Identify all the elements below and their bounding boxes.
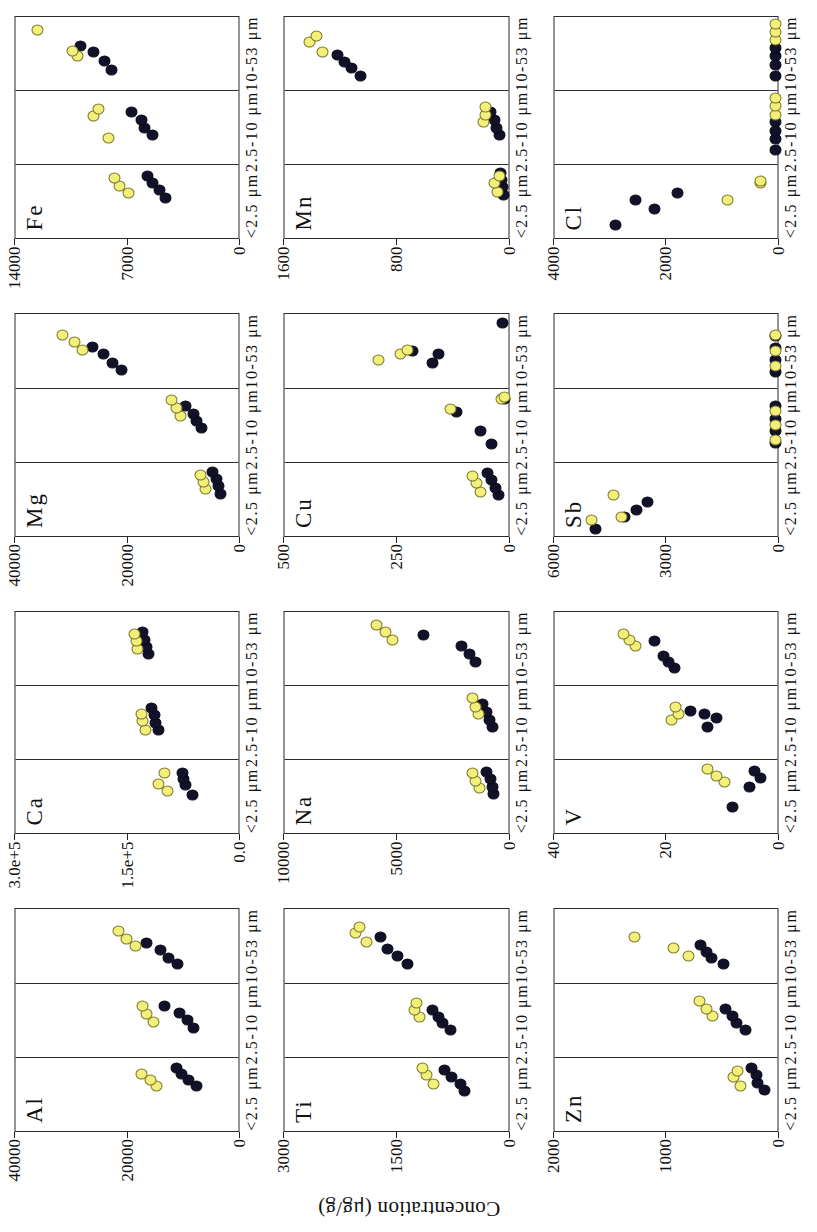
y-tick-mark — [14, 835, 15, 841]
plot-frame-mn: Mn — [283, 16, 508, 240]
y-tick-label: 6000 — [543, 544, 563, 578]
data-point-filled — [186, 790, 198, 801]
y-tick-mark — [126, 537, 127, 543]
y-tick-mark — [283, 537, 284, 543]
data-point-open — [466, 471, 478, 482]
data-point-open — [194, 469, 206, 480]
y-tick-mark — [395, 835, 396, 841]
x-category-label: <2.5 μm — [239, 469, 265, 537]
data-point-open — [135, 708, 147, 719]
y-axis-ticks-cu: 0250500 — [283, 537, 508, 595]
y-tick-label: 0 — [768, 544, 788, 553]
y-tick-label: 7000 — [117, 247, 137, 281]
plot-frame-mg: Mg — [14, 314, 239, 538]
y-tick-mark — [395, 240, 396, 246]
subpanel-na-2 — [284, 685, 507, 759]
y-tick-label: 40000 — [4, 544, 24, 587]
data-point-open — [66, 45, 78, 56]
data-point-open — [158, 768, 170, 779]
x-axis-v: <2.5 μm2.5-10 μm10-53 μm — [778, 611, 804, 835]
x-category-label: 2.5-10 μm — [778, 91, 804, 172]
subpanel-ti-3 — [284, 909, 507, 982]
plot-frame-v: V — [553, 611, 778, 835]
y-axis-ticks-na: 0500010000 — [283, 835, 508, 893]
panel-mg: 02000040000Mg<2.5 μm2.5-10 μm10-53 μm — [14, 314, 265, 596]
data-point-filled — [609, 220, 621, 231]
x-category-label: <2.5 μm — [509, 172, 535, 240]
y-axis-ticks-zn: 010002000 — [553, 1132, 778, 1190]
y-tick-label: 0 — [768, 1139, 788, 1148]
panel-ca: 0.01.5e+53.0e+5Ca<2.5 μm2.5-10 μm10-53 μ… — [14, 611, 265, 893]
data-point-filled — [648, 636, 660, 647]
x-category-label: <2.5 μm — [778, 172, 804, 240]
x-category-label: 2.5-10 μm — [509, 389, 535, 470]
data-point-open — [479, 102, 491, 113]
element-label: Al — [21, 1096, 47, 1123]
data-point-filled — [135, 115, 147, 126]
x-category-label: 10-53 μm — [778, 16, 804, 91]
panel-grid: 02000040000Al<2.5 μm2.5-10 μm10-53 μm0.0… — [14, 16, 804, 1190]
data-point-filled — [173, 1007, 185, 1018]
plot-frame-ca: Ca — [14, 611, 239, 835]
x-category-label: <2.5 μm — [509, 767, 535, 835]
data-point-filled — [401, 958, 413, 969]
data-point-open — [129, 941, 141, 952]
data-point-open — [56, 329, 68, 340]
data-point-filled — [726, 802, 738, 813]
subpanel-mg-3 — [15, 314, 238, 387]
y-tick-label: 0 — [499, 1139, 519, 1148]
data-point-filled — [698, 708, 710, 719]
data-point-filled — [641, 497, 653, 508]
data-point-filled — [106, 357, 118, 368]
panel-v: 02040V<2.5 μm2.5-10 μm10-53 μm — [553, 611, 804, 893]
data-point-open — [310, 31, 322, 42]
y-axis-ticks-ca: 0.01.5e+53.0e+5 — [14, 835, 239, 893]
subpanel-mn-1: Mn — [284, 164, 507, 238]
x-category-label: 10-53 μm — [239, 314, 265, 389]
data-point-open — [731, 1066, 743, 1077]
data-point-filled — [496, 318, 508, 329]
y-axis-ticks-fe: 0700014000 — [14, 240, 239, 298]
y-tick-label: 3000 — [655, 544, 675, 578]
element-label: Cu — [290, 497, 316, 528]
data-point-filled — [710, 713, 722, 724]
element-label: Na — [290, 795, 316, 826]
x-category-label: 10-53 μm — [239, 909, 265, 984]
y-tick-mark — [777, 537, 778, 543]
x-category-label: 2.5-10 μm — [509, 91, 535, 172]
data-point-open — [370, 620, 382, 631]
data-point-open — [122, 188, 134, 199]
data-point-open — [416, 1063, 428, 1074]
y-tick-mark — [14, 537, 15, 543]
y-tick-mark — [283, 1132, 284, 1138]
data-point-filled — [381, 944, 393, 955]
data-point-open — [112, 926, 124, 937]
panel-zn: 010002000Zn<2.5 μm2.5-10 μm10-53 μm — [553, 909, 804, 1191]
data-point-open — [108, 173, 120, 184]
x-axis-fe: <2.5 μm2.5-10 μm10-53 μm — [239, 16, 265, 240]
x-axis-ca: <2.5 μm2.5-10 μm10-53 μm — [239, 611, 265, 835]
subpanel-sb-2 — [554, 388, 777, 462]
y-tick-mark — [508, 835, 509, 841]
x-category-label: <2.5 μm — [778, 1064, 804, 1132]
data-point-open — [401, 344, 413, 355]
data-point-filled — [630, 504, 642, 515]
element-label: Cl — [560, 205, 586, 231]
data-point-open — [152, 778, 164, 789]
y-tick-mark — [239, 1132, 240, 1138]
element-label: Mn — [290, 195, 316, 231]
y-tick-mark — [508, 537, 509, 543]
subpanel-cu-2 — [284, 388, 507, 462]
element-label: Zn — [560, 1093, 586, 1123]
plot-frame-na: Na — [283, 611, 508, 835]
data-point-filled — [648, 204, 660, 215]
y-tick-label: 0 — [499, 544, 519, 553]
y-tick-label: 20000 — [117, 1139, 137, 1182]
subpanel-al-3 — [15, 909, 238, 982]
subpanel-cu-3 — [284, 314, 507, 387]
data-point-open — [31, 25, 43, 36]
subpanel-sb-3 — [554, 314, 777, 387]
x-category-label: <2.5 μm — [239, 172, 265, 240]
subpanel-cl-2 — [554, 90, 777, 164]
panel-sb: 030006000Sb<2.5 μm2.5-10 μm10-53 μm — [553, 314, 804, 596]
